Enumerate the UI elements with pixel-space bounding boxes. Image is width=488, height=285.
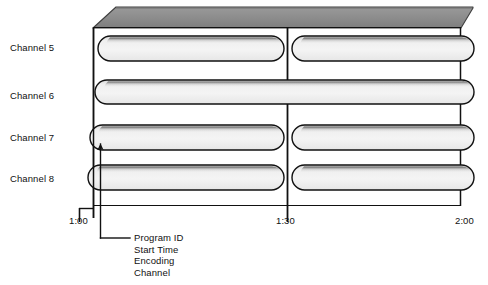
channel-label-8: Channel 8 — [10, 173, 54, 184]
program-block[interactable] — [98, 36, 284, 61]
program-block[interactable] — [90, 125, 284, 150]
figure-root: Channel 5 Channel 6 Channel 7 Channel 8 … — [0, 0, 488, 285]
program-block[interactable] — [292, 125, 474, 150]
program-block[interactable] — [292, 36, 474, 61]
diagram-canvas — [0, 0, 488, 285]
callout-annotation: Program ID Start Time Encoding Channel — [134, 232, 184, 278]
program-block[interactable] — [292, 165, 474, 190]
program-block[interactable] — [88, 165, 284, 190]
channel-label-5: Channel 5 — [10, 42, 54, 53]
callout-line-channel: Channel — [134, 267, 184, 279]
callout-line-program-id: Program ID — [134, 232, 184, 244]
callout-leader — [101, 144, 131, 238]
callout-line-encoding: Encoding — [134, 255, 184, 267]
time-label-130: 1:30 — [276, 215, 295, 226]
channel-label-6: Channel 6 — [10, 90, 54, 101]
time-label-200: 2:00 — [455, 215, 474, 226]
callout-line-start-time: Start Time — [134, 244, 184, 256]
box-top-face — [93, 7, 473, 28]
channel-label-7: Channel 7 — [10, 132, 54, 143]
program-block[interactable] — [95, 80, 474, 104]
time-label-100: 1:00 — [69, 215, 88, 226]
